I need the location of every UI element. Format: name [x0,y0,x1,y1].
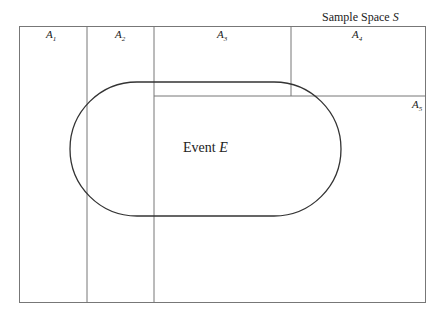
partition-label-a2: A2 [115,28,125,43]
sample-space-box [20,27,426,303]
event-e-label: Event E [183,140,228,156]
partition-label-a4: A4 [352,28,362,43]
partition-label-a1: A1 [46,28,56,43]
venn-diagram [0,0,442,319]
sample-space-label: Sample Space S [322,10,399,25]
partition-label-a5: A5 [412,98,422,113]
partition-label-a3: A3 [217,28,227,43]
